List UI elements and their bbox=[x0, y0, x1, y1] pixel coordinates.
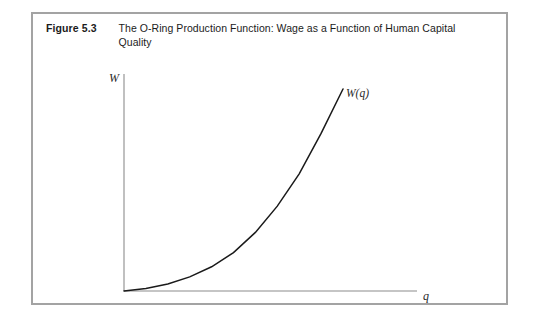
wage-curve bbox=[124, 89, 343, 291]
figure-frame: Figure 5.3 The O-Ring Production Functio… bbox=[31, 12, 508, 305]
figure-number: Figure 5.3 bbox=[46, 21, 97, 35]
x-axis-label: q bbox=[423, 289, 429, 304]
chart-plot-area bbox=[33, 14, 510, 307]
figure-caption: Figure 5.3 The O-Ring Production Functio… bbox=[46, 21, 490, 49]
figure-title: The O-Ring Production Function: Wage as … bbox=[119, 21, 489, 49]
curve-label: W(q) bbox=[346, 87, 369, 99]
y-axis-label: W bbox=[109, 71, 119, 86]
